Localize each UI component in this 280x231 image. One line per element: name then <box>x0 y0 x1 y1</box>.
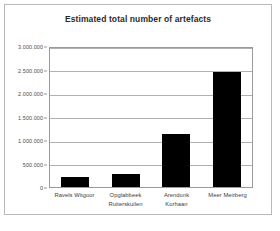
y-tick-mark <box>44 141 47 142</box>
x-tick-label-line2: Ruiterskuilen <box>100 200 151 209</box>
x-tick-label: Meer Meirberg <box>202 191 253 208</box>
bar-slot <box>151 48 202 187</box>
y-tick-label: 1.500.000 <box>18 115 43 121</box>
x-tick-label-line1: Ravels Witgoor <box>54 192 94 198</box>
y-tick-mark <box>44 70 47 71</box>
x-tick-label: Ravels Witgoor <box>49 191 100 208</box>
y-tick-mark <box>44 47 47 48</box>
x-tick-label: ArendonkKorhaan <box>151 191 202 208</box>
bar <box>162 134 190 187</box>
bar <box>112 174 140 187</box>
y-tick-mark <box>44 117 47 118</box>
bar <box>61 177 89 187</box>
y-tick-label: 3.000.000 <box>18 44 43 50</box>
bar-slot <box>101 48 152 187</box>
plot-area <box>49 47 253 188</box>
y-tick-label: 2.500.000 <box>18 68 43 74</box>
chart-figure: Estimated total number of artefacts 3.00… <box>4 4 272 215</box>
x-tick-label-line1: Opglabbeek <box>110 192 142 198</box>
x-tick-label-line2: Korhaan <box>151 200 202 209</box>
x-tick-label-line1: Arendonk <box>164 192 189 198</box>
y-tick-mark <box>44 188 47 189</box>
y-tick-label: 0 <box>40 185 43 191</box>
y-tick-label: 2.000.000 <box>18 91 43 97</box>
chart-title: Estimated total number of artefacts <box>5 14 271 24</box>
x-axis: Ravels WitgoorOpglabbeekRuiterskuilenAre… <box>49 191 253 208</box>
y-axis: 3.000.0002.500.0002.000.0001.500.0001.00… <box>5 47 47 188</box>
y-tick-mark <box>44 164 47 165</box>
y-tick-mark <box>44 94 47 95</box>
y-tick-label: 1.000.000 <box>18 138 43 144</box>
y-tick-label: 500.000 <box>23 162 43 168</box>
x-tick-label: OpglabbeekRuiterskuilen <box>100 191 151 208</box>
bar-slot <box>202 48 253 187</box>
bar <box>213 72 241 187</box>
x-tick-label-line1: Meer Meirberg <box>208 192 246 198</box>
bar-slot <box>50 48 101 187</box>
bar-series <box>50 48 252 187</box>
